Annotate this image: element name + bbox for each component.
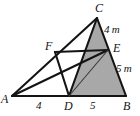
label-length-db: 5 — [90, 100, 96, 111]
label-vertex-b: B — [123, 100, 130, 112]
label-vertex-f: F — [45, 40, 52, 52]
label-vertex-e: E — [113, 42, 120, 54]
label-vertex-a: A — [1, 93, 8, 105]
label-vertex-c: C — [95, 2, 103, 14]
label-vertex-d: D — [64, 100, 73, 112]
label-measure-4m: 4 m — [104, 24, 120, 35]
label-length-ad: 4 — [36, 100, 42, 111]
label-measure-5m: 5 m — [116, 63, 132, 74]
geometry-figure: C F E A D B 4 m 5 m 4 5 — [0, 0, 140, 116]
